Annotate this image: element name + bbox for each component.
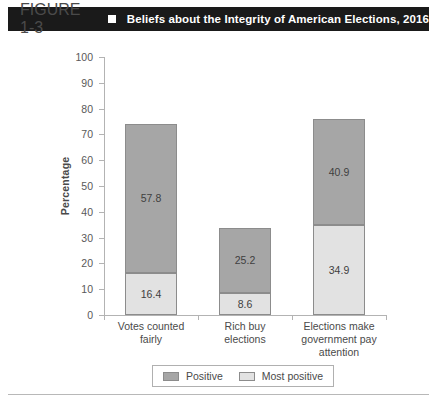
x-axis-category-label: Votes countedfairly bbox=[104, 320, 198, 346]
bar-group[interactable]: 25.28.6 bbox=[219, 228, 271, 315]
y-axis-tick-label: 50 bbox=[0, 180, 93, 192]
category-label-line: fairly bbox=[104, 333, 198, 346]
bar-value-label: 34.9 bbox=[329, 265, 349, 276]
legend-swatch bbox=[163, 372, 179, 381]
category-label-line: elections bbox=[198, 333, 292, 346]
legend-item[interactable]: Positive bbox=[163, 370, 223, 382]
bar-value-label: 16.4 bbox=[141, 289, 161, 300]
bar-segment-positive[interactable]: 25.2 bbox=[219, 228, 271, 293]
bar-segment-most-positive[interactable]: 34.9 bbox=[313, 225, 365, 315]
category-label-line: Elections make bbox=[292, 320, 386, 333]
bar-value-label: 25.2 bbox=[235, 255, 255, 266]
x-axis-category-label: Elections makegovernment payattention bbox=[292, 320, 386, 359]
category-label-line: government pay bbox=[292, 333, 386, 346]
y-axis-tick-label: 80 bbox=[0, 103, 93, 115]
legend-item[interactable]: Most positive bbox=[239, 370, 323, 382]
x-axis-spine bbox=[104, 315, 387, 316]
x-axis-tick bbox=[386, 315, 387, 320]
category-label-line: Rich buy bbox=[198, 320, 292, 333]
bar-segment-positive[interactable]: 57.8 bbox=[125, 124, 177, 273]
y-axis-tick-label: 0 bbox=[0, 309, 93, 321]
category-label-line: attention bbox=[292, 346, 386, 359]
figure-title-bar: FIGURE 1-3 Beliefs about the Integrity o… bbox=[8, 7, 429, 31]
y-axis-tick-label: 40 bbox=[0, 206, 93, 218]
legend-swatch bbox=[239, 372, 255, 381]
bar-value-label: 40.9 bbox=[329, 167, 349, 178]
figure-title: Beliefs about the Integrity of American … bbox=[127, 13, 429, 25]
y-axis-tick-label: 90 bbox=[0, 77, 93, 89]
y-axis-tick-label: 70 bbox=[0, 128, 93, 140]
chart-legend: PositiveMost positive bbox=[152, 365, 334, 387]
category-label-line: Votes counted bbox=[104, 320, 198, 333]
bar-value-label: 8.6 bbox=[238, 299, 253, 310]
legend-label: Positive bbox=[186, 370, 223, 382]
y-axis-tick-label: 60 bbox=[0, 154, 93, 166]
y-axis-tick-label: 100 bbox=[0, 51, 93, 63]
bar-group[interactable]: 57.816.4 bbox=[125, 124, 177, 315]
figure-bottom-rule bbox=[8, 394, 429, 395]
bar-segment-most-positive[interactable]: 16.4 bbox=[125, 273, 177, 315]
bar-group[interactable]: 40.934.9 bbox=[313, 119, 365, 315]
bar-segment-positive[interactable]: 40.9 bbox=[313, 119, 365, 225]
figure-number: FIGURE 1-3 bbox=[20, 1, 95, 37]
plot-area: 57.816.425.28.640.934.9 bbox=[104, 57, 386, 315]
x-axis-category-label: Rich buyelections bbox=[198, 320, 292, 346]
square-bullet-icon bbox=[108, 15, 116, 23]
bar-value-label: 57.8 bbox=[141, 193, 161, 204]
y-axis-tick-label: 20 bbox=[0, 257, 93, 269]
y-axis-tick-label: 30 bbox=[0, 232, 93, 244]
figure-container: FIGURE 1-3 Beliefs about the Integrity o… bbox=[0, 0, 437, 402]
y-axis-tick-label: 10 bbox=[0, 283, 93, 295]
bar-segment-most-positive[interactable]: 8.6 bbox=[219, 293, 271, 315]
legend-label: Most positive bbox=[262, 370, 323, 382]
